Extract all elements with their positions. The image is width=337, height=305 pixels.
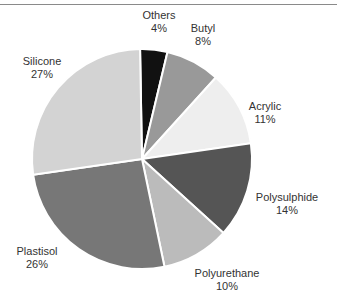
slice-label-polyurethane: Polyurethane10% (195, 267, 260, 293)
slice-label-percent: 26% (17, 258, 58, 271)
slice-label-percent: 14% (256, 204, 318, 217)
slice-label-percent: 10% (195, 280, 260, 293)
slice-label-name: Others (142, 9, 175, 22)
slice-label-name: Butyl (191, 22, 215, 35)
slice-label-name: Acrylic (249, 100, 281, 113)
slice-label-percent: 8% (191, 35, 215, 48)
slice-label-acrylic: Acrylic11% (249, 100, 281, 126)
slice-label-name: Plastisol (17, 245, 58, 258)
slice-label-name: Polysulphide (256, 191, 318, 204)
slice-label-percent: 11% (249, 113, 281, 126)
slice-label-polysulphide: Polysulphide14% (256, 191, 318, 217)
slice-label-plastisol: Plastisol26% (17, 245, 58, 271)
slice-label-percent: 27% (23, 68, 62, 81)
slice-label-butyl: Butyl8% (191, 22, 215, 48)
slice-label-silicone: Silicone27% (23, 55, 62, 81)
slice-label-percent: 4% (142, 22, 175, 35)
slice-label-name: Polyurethane (195, 267, 260, 280)
slice-label-others: Others4% (142, 9, 175, 35)
slice-label-name: Silicone (23, 55, 62, 68)
